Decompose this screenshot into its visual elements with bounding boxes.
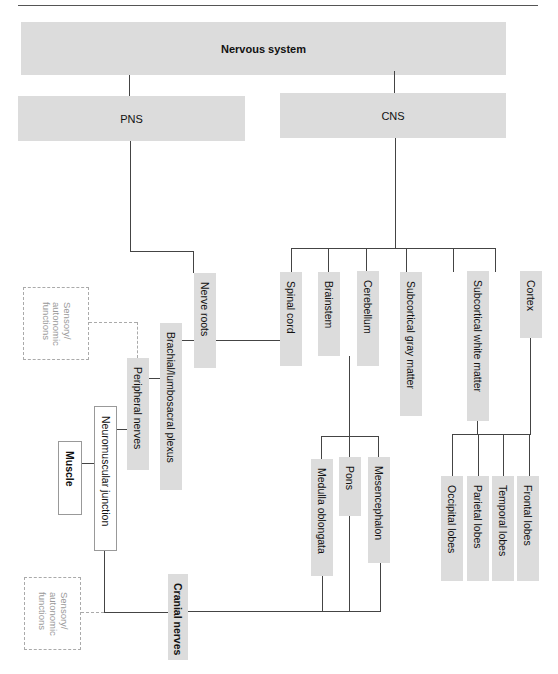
node-parietal-lobes: Parietal lobes (467, 476, 489, 581)
connector-to-nerve-roots (193, 251, 194, 273)
node-brainstem: Brainstem (318, 272, 340, 356)
node-cortex: Cortex (520, 271, 542, 338)
node-cns: CNS (280, 93, 506, 138)
connector-frontal (529, 434, 530, 476)
connector-plexus-nerve-roots (182, 340, 194, 341)
connector-white-matter-down (477, 421, 478, 435)
node-medulla-oblongata: Medulla oblongata (311, 459, 333, 576)
connector-root-pns (129, 75, 130, 97)
node-label: Cerebellum (363, 271, 374, 366)
node-label: Nervous system (221, 43, 306, 55)
connector-medulla-bottom (322, 576, 323, 612)
node-label: Cortex (526, 271, 537, 338)
connector-pns-right (130, 251, 194, 252)
node-cerebellum: Cerebellum (357, 271, 379, 366)
connector-cns-down (395, 138, 396, 248)
node-occipital-lobes: Occipital lobes (441, 476, 463, 581)
connector-nerve-roots-spinal-cord (216, 340, 280, 341)
node-spinal-cord: Spinal cord (280, 272, 302, 366)
brainstem-bus (321, 436, 379, 437)
connector-peripheral-plexus (149, 378, 160, 379)
connector-subcortical-gray (406, 248, 407, 272)
node-subcortical-white-matter: Subcortical white matter (467, 271, 489, 421)
node-label: Muscle (65, 442, 76, 514)
node-peripheral-nerves: Peripheral nerves (127, 358, 149, 470)
node-label: Parietal lobes (473, 476, 484, 581)
node-muscle: Muscle (58, 441, 82, 515)
node-brachial-lumbosacral-plexus: Brachial/lumbosacral plexus (160, 323, 182, 490)
node-neuromuscular-junction: Neuromuscular junction (94, 406, 117, 551)
node-nerve-roots: Nerve roots (194, 273, 216, 368)
node-label: Subcortical gray matter (406, 272, 417, 416)
connector-pns-down (130, 141, 131, 252)
connector-temporal (503, 434, 504, 476)
node-mesencephalon: Mesencephalon (368, 457, 390, 563)
node-label: Nerve roots (200, 273, 211, 368)
dashed-connector-top-v (137, 322, 138, 358)
node-label: Brachial/lumbosacral plexus (166, 323, 177, 490)
node-label: Subcortical white matter (473, 271, 484, 421)
node-label: Cranial nerves (173, 574, 184, 660)
node-label: Medulla oblongata (317, 459, 328, 576)
connector-root-cns (394, 71, 395, 94)
node-pns: PNS (18, 96, 245, 141)
node-subcortical-gray-matter: Subcortical gray matter (400, 272, 422, 416)
connector-subcortical-white (453, 248, 454, 272)
node-temporal-lobes: Temporal lobes (492, 476, 514, 581)
node-label: Brainstem (324, 272, 335, 356)
node-label: Neuromuscular junction (100, 407, 111, 550)
connector-occipital (452, 434, 453, 476)
connector-muscle-nmj (82, 463, 94, 464)
node-label: CNS (381, 110, 404, 122)
lobes-bus (452, 434, 531, 435)
node-label: Frontal lobes (523, 476, 534, 581)
node-frontal-lobes: Frontal lobes (517, 476, 539, 581)
connector-nmj-peripheral (116, 429, 127, 430)
sensory-autonomic-box-top: Sensory/ autonomic functions (23, 287, 89, 360)
node-label: Temporal lobes (498, 476, 509, 581)
sensory-label: Sensory/ autonomic functions (36, 592, 69, 636)
node-label: Mesencephalon (374, 457, 385, 563)
node-label: Occipital lobes (447, 476, 458, 581)
connector-cerebellum (366, 248, 367, 272)
connector-spinal-cord (291, 248, 292, 272)
node-label: Peripheral nerves (133, 358, 144, 470)
connector-parietal (478, 434, 479, 476)
dashed-connector-top-h (89, 322, 137, 323)
sensory-autonomic-box-bottom: Sensory/ autonomic functions (24, 577, 81, 650)
sensory-label: Sensory/ autonomic functions (40, 302, 73, 346)
node-label: PNS (120, 113, 143, 125)
dashed-connector-bottom (81, 612, 104, 613)
bottom-bus-left (104, 612, 168, 613)
node-cranial-nerves: Cranial nerves (168, 574, 188, 660)
node-label: Spinal cord (286, 272, 297, 366)
node-pons: Pons (339, 457, 361, 516)
top-rule (18, 5, 538, 6)
connector-cortex-down (530, 338, 531, 435)
node-label: Pons (345, 457, 356, 516)
connector-medulla (321, 436, 322, 459)
node-nervous-system: Nervous system (21, 22, 506, 75)
connector-mesencephalon-bottom (380, 563, 381, 612)
cns-bus (291, 248, 496, 249)
connector-brainstem (328, 248, 329, 272)
connector-nmj-down (104, 551, 105, 613)
connector-mesencephalon (378, 436, 379, 457)
connector-cortex (495, 248, 496, 272)
brainstem-bottom-bus (322, 611, 381, 612)
